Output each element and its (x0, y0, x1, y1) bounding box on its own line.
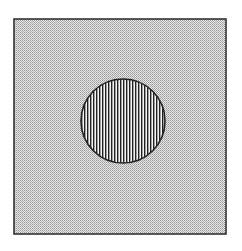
diagram-figure (0, 0, 242, 251)
striped-circle (81, 79, 165, 163)
